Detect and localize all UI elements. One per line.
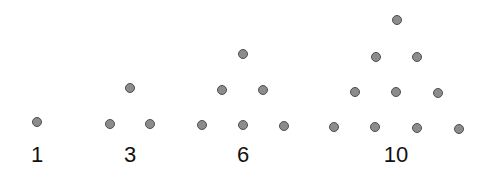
dot-icon	[454, 124, 464, 134]
dot-icon	[238, 49, 248, 59]
dot-icon	[412, 52, 422, 62]
dot-icon	[412, 123, 422, 133]
dot-icon	[145, 119, 155, 129]
dot-icon	[329, 122, 339, 132]
group-label-6: 6	[237, 143, 249, 167]
dot-icon	[105, 119, 115, 129]
dot-icon	[125, 83, 135, 93]
dot-icon	[238, 120, 248, 130]
dot-icon	[32, 117, 42, 127]
dot-icon	[197, 120, 207, 130]
dot-icon	[279, 121, 289, 131]
dot-icon	[392, 15, 402, 25]
dot-icon	[391, 87, 401, 97]
group-label-10: 10	[384, 143, 408, 167]
triangular-numbers-diagram: 1 3 6 10	[0, 0, 493, 180]
dot-icon	[370, 122, 380, 132]
dot-icon	[433, 88, 443, 98]
dot-icon	[258, 85, 268, 95]
group-label-1: 1	[31, 143, 43, 167]
dot-icon	[371, 52, 381, 62]
dot-icon	[217, 85, 227, 95]
group-label-3: 3	[124, 143, 136, 167]
dot-icon	[350, 87, 360, 97]
